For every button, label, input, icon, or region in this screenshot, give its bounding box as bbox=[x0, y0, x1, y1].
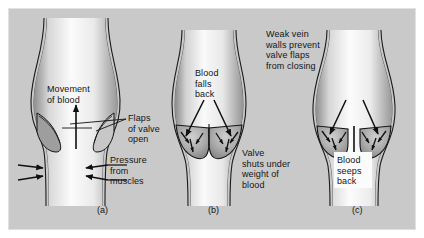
valve-cusp-b-right bbox=[209, 125, 242, 159]
annotation-blood-falls-back: Blood falls back bbox=[195, 68, 219, 100]
vein-panel-b bbox=[172, 30, 246, 206]
pressure-arrow-left-bottom bbox=[18, 176, 43, 180]
annotation-flaps-of-valve-open: Flaps of valve open bbox=[128, 113, 160, 145]
annotation-weak-vein-walls-prevent-valve-flaps-from-closing: Weak vein walls prevent valve flaps from… bbox=[266, 29, 320, 71]
panel-label-c: (c) bbox=[352, 205, 363, 215]
annotation-movement-of-blood: Movement of blood bbox=[47, 84, 90, 105]
annotation-blood-seeps-back: Blood seeps back bbox=[337, 155, 362, 187]
vein-illustrations bbox=[0, 0, 424, 238]
valve-cusp-b-left bbox=[176, 125, 209, 159]
vein-valve-figure: Movement of blood Flaps of valve open Pr… bbox=[0, 0, 424, 238]
vein-lumen-b bbox=[175, 30, 243, 206]
panel-label-a: (a) bbox=[97, 205, 108, 215]
annotation-pressure-from-muscles: Pressure from muscles bbox=[110, 155, 147, 187]
panel-label-b: (b) bbox=[208, 205, 219, 215]
annotation-valve-shuts-under-weight-of-blood: Valve shuts under weight of blood bbox=[242, 148, 290, 190]
pressure-arrow-left-top bbox=[18, 165, 43, 168]
